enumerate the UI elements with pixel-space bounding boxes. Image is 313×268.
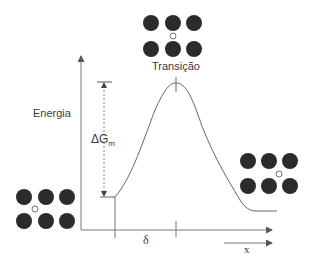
lattice-final — [240, 153, 298, 194]
transition-label: Transição — [152, 60, 200, 72]
migrating-atom — [276, 171, 282, 177]
barrier-label: ΔGm — [91, 132, 115, 148]
distance-label: δ — [143, 233, 149, 248]
migrating-atom — [32, 206, 38, 212]
y-axis-label: Energia — [33, 107, 71, 119]
barrier-label-sub: m — [108, 139, 115, 148]
barrier-label-main: ΔG — [91, 132, 108, 146]
energy-diagram — [0, 0, 313, 268]
migrating-atom — [170, 33, 176, 39]
barrier-arrow-up — [101, 82, 107, 88]
x-axis-label: x — [244, 243, 250, 255]
lattice-transition — [143, 15, 202, 57]
lattice-initial — [16, 189, 75, 229]
barrier-arrow-down — [101, 191, 107, 197]
